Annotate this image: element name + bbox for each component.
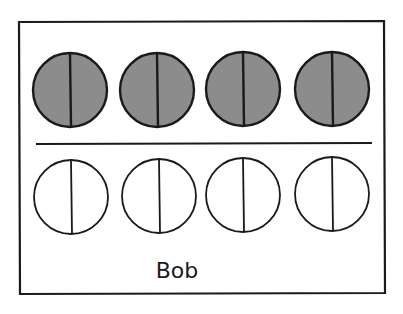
- empty-circle-half-divider: [332, 157, 333, 231]
- empty-circle-half-divider: [159, 159, 160, 233]
- caption-label: Bob: [140, 258, 214, 283]
- filled-circle-half-divider: [332, 52, 333, 126]
- filled-circle-half-divider: [70, 53, 71, 127]
- filled-circle-half-divider: [157, 53, 158, 127]
- empty-circle-half-divider: [71, 160, 72, 234]
- empty-circle-1: [34, 160, 108, 234]
- filled-circle-4: [295, 52, 369, 126]
- filled-circle-3: [206, 52, 280, 126]
- empty-circle-2: [122, 159, 196, 233]
- empty-circle-3: [206, 158, 280, 232]
- empty-circle-4: [295, 157, 369, 231]
- filled-circle-1: [33, 53, 107, 127]
- filled-circle-2: [120, 53, 194, 127]
- empty-circle-half-divider: [243, 158, 244, 232]
- row-divider-line: [36, 143, 372, 144]
- filled-circle-half-divider: [243, 52, 244, 126]
